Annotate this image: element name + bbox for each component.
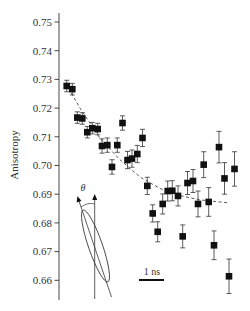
scale-bar-label: 1 ns [144,266,161,277]
square-marker [216,144,223,151]
data-point [211,231,218,260]
y-axis: 0.750.740.730.720.710.700.690.680.670.66 [33,13,59,300]
data-point [221,163,228,195]
data-point [114,138,121,152]
scale-bar-line [139,279,164,281]
square-marker [211,242,218,249]
y-tick-label: 0.71 [33,131,52,143]
data-point [205,188,212,217]
data-point [195,191,202,217]
square-marker [231,166,238,173]
angle-arc [81,203,95,207]
square-marker [114,142,121,149]
square-marker [139,135,146,142]
square-marker [94,126,101,133]
square-marker [200,161,207,168]
data-point [104,138,111,152]
data-point [200,152,207,178]
y-tick-label: 0.72 [33,102,52,114]
data-point [149,205,156,222]
y-tick-label: 0.68 [33,217,53,229]
square-marker [195,201,202,208]
square-marker [104,142,111,149]
square-marker [144,183,151,190]
square-marker [154,228,161,235]
data-point [109,160,116,174]
square-marker [159,201,166,208]
square-marker [190,178,197,185]
square-marker [179,233,186,240]
data-point [231,152,238,186]
y-tick-label: 0.66 [33,274,53,286]
data-point [119,116,126,130]
square-marker [226,273,233,280]
data-points [63,80,237,293]
y-tick-label: 0.70 [33,159,53,171]
anisotropy-chart: 0.750.740.730.720.710.700.690.680.670.66… [0,0,250,311]
scale-bar: 1 ns [139,266,164,281]
y-tick-label: 0.75 [33,16,53,28]
data-point [175,186,182,206]
tilted-axis-line [79,201,112,297]
data-point [144,177,151,194]
vertical-arrowhead-icon [92,194,97,200]
data-point [190,170,197,193]
square-marker [221,175,228,182]
square-marker [134,151,141,158]
data-point [159,194,166,214]
data-point [179,225,186,248]
theta-label: θ [81,182,86,193]
y-tick-label: 0.69 [33,188,53,200]
y-tick-label: 0.74 [33,45,53,57]
square-marker [109,164,116,171]
square-marker [69,86,76,93]
tilted-arrowhead-icon [77,196,82,203]
data-point [216,131,223,163]
square-marker [169,187,176,194]
data-point [139,129,146,146]
square-marker [175,193,182,200]
inset-diagram: θ [77,182,115,299]
ellipse-shape [77,208,115,284]
y-axis-label: Anisotropy [8,130,20,180]
data-point [154,222,161,242]
data-point [226,259,233,293]
square-marker [149,210,156,217]
square-marker [79,115,86,122]
data-point [169,181,176,201]
y-tick-label: 0.67 [33,245,53,257]
y-tick-label: 0.73 [33,73,53,85]
square-marker [119,120,126,127]
square-marker [205,199,212,206]
